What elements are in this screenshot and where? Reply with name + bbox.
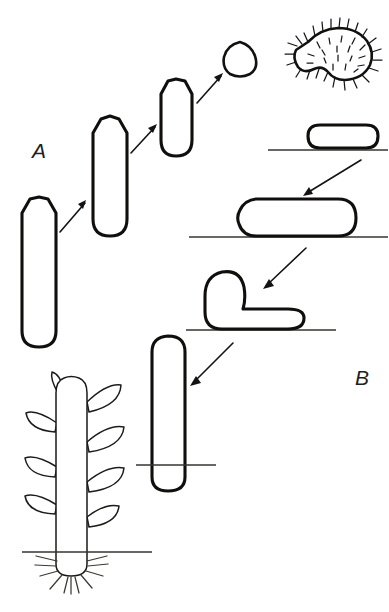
arrow-a2-to-a3 <box>131 124 157 153</box>
arrow-b3-to-b4 <box>190 343 233 386</box>
arrow-b1-to-b2 <box>303 160 361 196</box>
panel-a-group: A <box>22 18 382 347</box>
erect-rod-stage-3 <box>161 79 192 156</box>
panel-b-group: B <box>22 125 388 594</box>
elongating-axis <box>238 199 356 236</box>
arrow-b2-to-b3 <box>263 248 306 289</box>
panel-a-label: A <box>30 139 47 162</box>
figure-canvas: A <box>0 0 389 612</box>
leaf <box>87 505 119 527</box>
arrow-a1-to-a2 <box>60 200 86 232</box>
leaf <box>25 495 57 514</box>
erect-seedling <box>152 336 185 491</box>
leaf <box>25 457 57 477</box>
hypocotyl-hook <box>205 272 304 329</box>
arrow-a3-to-a4 <box>197 73 223 103</box>
panel-b-label: B <box>355 366 370 389</box>
plant-stem <box>56 377 87 577</box>
leaf <box>87 385 121 412</box>
leaf <box>26 412 57 432</box>
seed-body-stage-4 <box>224 42 257 77</box>
leaf <box>87 468 124 492</box>
leaf <box>87 427 124 452</box>
seed-on-soil <box>308 125 378 148</box>
erect-rod-stage-2 <box>93 116 127 236</box>
erect-rod-stage-1 <box>22 197 56 347</box>
hairy-seed-stage-5 <box>285 18 382 90</box>
leaf-group-right <box>87 385 124 527</box>
leafy-plant <box>22 372 152 594</box>
germination-figure: A <box>0 0 389 612</box>
